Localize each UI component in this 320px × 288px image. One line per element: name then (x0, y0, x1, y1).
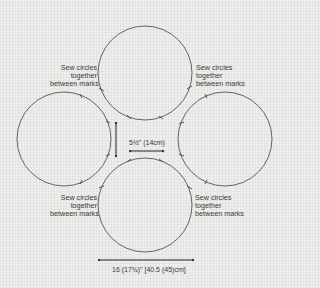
seam-marks (80, 86, 207, 189)
label-top-right: Sew circles together between marks (196, 64, 245, 89)
overall-width-label: 16 (17¾)" [40.5 (45)cm] (112, 266, 186, 273)
gap-dimension-label: 5½" (14cm) (129, 139, 165, 146)
circle-top (98, 26, 192, 120)
circle-right (178, 92, 272, 186)
label-top-left: Sew circles together between marks (50, 64, 97, 89)
circle-bottom (98, 158, 192, 252)
circle-left (17, 92, 111, 186)
label-bottom-right: Sew circles together between marks (195, 194, 244, 219)
label-bottom-left: Sew circles together between marks (50, 194, 97, 219)
